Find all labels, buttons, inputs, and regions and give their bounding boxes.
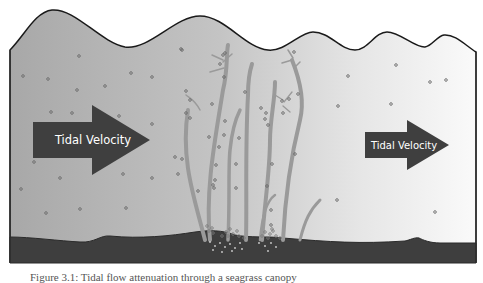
- arrow-label-large: Tidal Velocity: [54, 133, 131, 147]
- arrow-label-small: Tidal Velocity: [370, 140, 437, 151]
- figure-caption: Figure 3.1: Tidal flow attenuation throu…: [30, 271, 297, 283]
